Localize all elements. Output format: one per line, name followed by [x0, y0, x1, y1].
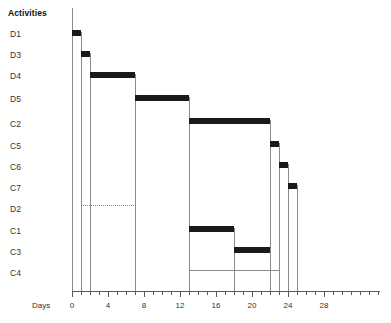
tick-label-24: 24	[284, 301, 293, 310]
tick-minor-6	[126, 291, 127, 295]
tick-minor-5	[117, 291, 118, 295]
tick-minor-31	[351, 291, 352, 295]
connector-d1-end	[81, 32, 82, 291]
tick-major-0	[72, 291, 73, 297]
tick-minor-11	[171, 291, 172, 295]
row-label-d2: D2	[10, 204, 21, 214]
tick-minor-27	[315, 291, 316, 295]
tick-minor-10	[162, 291, 163, 295]
row-label-c7: C7	[10, 183, 21, 193]
row-label-c3: C3	[10, 247, 21, 257]
x-axis-title: Days	[32, 301, 50, 310]
bar-d2-dotted[interactable]	[81, 205, 135, 206]
tick-minor-2	[90, 291, 91, 295]
tick-major-28	[324, 291, 325, 297]
tick-minor-32	[360, 291, 361, 295]
tick-minor-13	[189, 291, 190, 295]
bar-d1[interactable]	[72, 30, 81, 36]
bar-c1[interactable]	[189, 226, 234, 232]
bar-c4-thin[interactable]	[189, 270, 279, 271]
tick-minor-26	[306, 291, 307, 295]
y-axis-spine	[72, 8, 73, 291]
row-label-d4: D4	[10, 71, 21, 81]
tick-minor-22	[270, 291, 271, 295]
tick-minor-29	[333, 291, 334, 295]
tick-minor-19	[243, 291, 244, 295]
y-axis-title: Activities	[8, 8, 47, 18]
tick-minor-23	[279, 291, 280, 295]
tick-major-4	[108, 291, 109, 297]
tick-minor-30	[342, 291, 343, 295]
row-label-d1: D1	[10, 29, 21, 39]
bar-c6[interactable]	[279, 162, 288, 168]
connector-d5-end	[189, 97, 190, 291]
tick-label-20: 20	[248, 301, 257, 310]
tick-minor-34	[378, 291, 379, 295]
connector-c7-end	[297, 185, 298, 291]
tick-minor-7	[135, 291, 136, 295]
tick-minor-1	[81, 291, 82, 295]
connector-c1-end	[234, 228, 235, 291]
bar-c3[interactable]	[234, 247, 270, 253]
tick-major-20	[252, 291, 253, 297]
tick-label-12: 12	[176, 301, 185, 310]
tick-minor-17	[225, 291, 226, 295]
row-label-d5: D5	[10, 94, 21, 104]
tick-minor-3	[99, 291, 100, 295]
tick-major-8	[144, 291, 145, 297]
tick-minor-14	[198, 291, 199, 295]
bar-c5[interactable]	[270, 141, 279, 147]
row-label-c5: C5	[10, 141, 21, 151]
tick-minor-9	[153, 291, 154, 295]
row-label-d3: D3	[10, 50, 21, 60]
tick-minor-21	[261, 291, 262, 295]
tick-label-4: 4	[106, 301, 110, 310]
tick-minor-33	[369, 291, 370, 295]
tick-label-16: 16	[212, 301, 221, 310]
tick-label-0: 0	[70, 301, 74, 310]
gantt-chart: Activities D1 D3 D4 D5 C2 C5 C6 C7 D2 C1…	[0, 0, 391, 323]
row-label-c4: C4	[10, 268, 21, 278]
tick-major-12	[180, 291, 181, 297]
bar-d3[interactable]	[81, 51, 90, 57]
tick-major-16	[216, 291, 217, 297]
tick-major-24	[288, 291, 289, 297]
tick-minor-15	[207, 291, 208, 295]
tick-label-8: 8	[142, 301, 146, 310]
tick-minor-18	[234, 291, 235, 295]
bar-d4[interactable]	[90, 72, 135, 78]
row-label-c1: C1	[10, 226, 21, 236]
row-label-c6: C6	[10, 162, 21, 172]
tick-label-28: 28	[320, 301, 329, 310]
bar-c2[interactable]	[189, 118, 270, 124]
bar-c7[interactable]	[288, 183, 297, 189]
tick-minor-25	[297, 291, 298, 295]
bar-d5[interactable]	[135, 95, 189, 101]
row-label-c2: C2	[10, 119, 21, 129]
connector-d3-end	[90, 53, 91, 291]
connector-d4-end	[135, 74, 136, 291]
